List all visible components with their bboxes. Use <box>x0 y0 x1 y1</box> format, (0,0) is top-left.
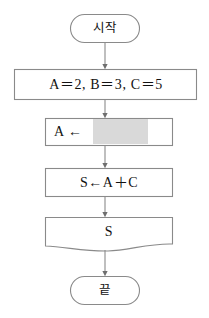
start-node-label: 시작 <box>70 15 140 42</box>
sum-node-label: S←A＋C <box>45 170 173 196</box>
flowchart-canvas: 시작 A＝2, B＝3, C＝5 A ← S←A＋C S 끝 <box>0 0 209 318</box>
init-node-label: A＝2, B＝3, C＝5 <box>15 70 197 99</box>
assign-a-node-label: A ← <box>46 120 96 144</box>
output-node-label: S <box>45 219 173 245</box>
end-node-label: 끝 <box>70 277 140 304</box>
redacted-value-block <box>93 119 148 144</box>
flowchart-shapes <box>0 0 209 318</box>
